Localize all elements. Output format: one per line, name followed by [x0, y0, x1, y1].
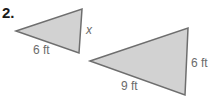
large-triangle-right-label: 6 ft — [191, 57, 208, 69]
large-triangle-bottom-label: 9 ft — [121, 80, 138, 92]
large-triangle — [90, 28, 188, 95]
small-triangle-bottom-label: 6 ft — [33, 44, 50, 56]
small-triangle-right-label: x — [86, 24, 92, 36]
